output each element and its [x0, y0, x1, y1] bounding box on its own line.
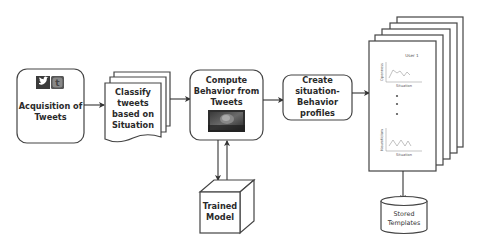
- classify-node: Classify tweets based on Situation: [105, 72, 170, 142]
- twitter-t-icon: t: [51, 76, 64, 89]
- svg-text:t: t: [55, 78, 60, 88]
- acquisition-label-2: Tweets: [34, 112, 66, 122]
- create-label-1: Create: [302, 75, 333, 85]
- acquisition-node: t Acquisition of Tweets: [17, 69, 84, 143]
- classify-label-2: tweets: [117, 98, 148, 108]
- acquisition-label-1: Acquisition of: [19, 101, 83, 111]
- create-label-2: situation-: [295, 86, 340, 96]
- trained-model-label-2: Model: [206, 212, 234, 222]
- twitter-bird-icon: [36, 76, 50, 89]
- compute-label-3: Tweets: [210, 97, 242, 107]
- classify-label-3: based on: [112, 109, 154, 119]
- ellipsis-dot: [396, 95, 398, 97]
- classify-label-4: Situation: [112, 120, 154, 130]
- ellipsis-dot: [396, 113, 398, 115]
- compute-label-2: Behavior from: [194, 86, 260, 96]
- diagram-canvas: t Acquisition of Tweets Classify tweets …: [0, 0, 485, 248]
- openness-axis-label: Openness: [380, 63, 384, 81]
- ellipsis-dot: [396, 103, 398, 105]
- compute-node: Compute Behavior from Tweets: [190, 70, 263, 140]
- profiles-stack: User 1 Openness Situation Neuroticism Si…: [369, 17, 463, 171]
- stored-templates-node: Stored Templates: [381, 197, 427, 234]
- create-node: Create situation- Behavior profiles: [283, 75, 352, 120]
- profile-title: User 1: [405, 53, 419, 58]
- trained-model-node: Trained Model: [200, 180, 254, 233]
- neuroticism-x-label: Situation: [396, 153, 412, 157]
- brain-image: [208, 110, 245, 132]
- stored-label-1: Stored: [394, 210, 415, 218]
- classify-label-1: Classify: [115, 87, 151, 97]
- trained-model-label-1: Trained: [203, 201, 237, 211]
- compute-label-1: Compute: [206, 75, 248, 85]
- create-label-4: profiles: [300, 108, 335, 118]
- neuroticism-axis-label: Neuroticism: [380, 129, 384, 151]
- openness-x-label: Situation: [396, 84, 412, 88]
- stored-label-2: Templates: [387, 219, 421, 227]
- create-label-3: Behavior: [297, 97, 339, 107]
